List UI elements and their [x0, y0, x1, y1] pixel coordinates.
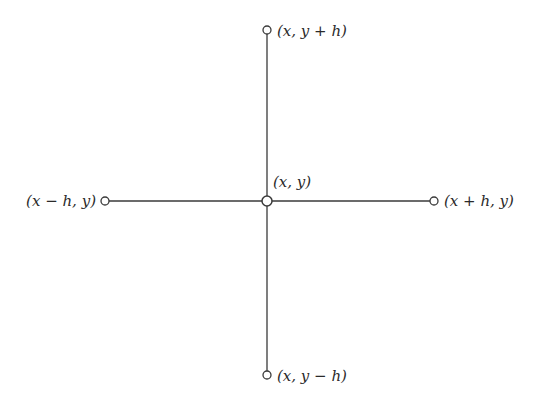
node-right: [430, 197, 438, 205]
label-top: (x, y + h): [277, 22, 347, 40]
node-bottom: [263, 371, 271, 379]
stencil-diagram: (x, y + h) (x − h, y) (x, y) (x + h, y) …: [0, 0, 536, 398]
node-left: [101, 197, 109, 205]
node-top: [263, 26, 271, 34]
label-bottom: (x, y − h): [277, 367, 347, 385]
node-center: [262, 196, 272, 206]
label-left: (x − h, y): [26, 192, 96, 210]
label-right: (x + h, y): [444, 192, 514, 210]
label-center: (x, y): [273, 173, 311, 191]
